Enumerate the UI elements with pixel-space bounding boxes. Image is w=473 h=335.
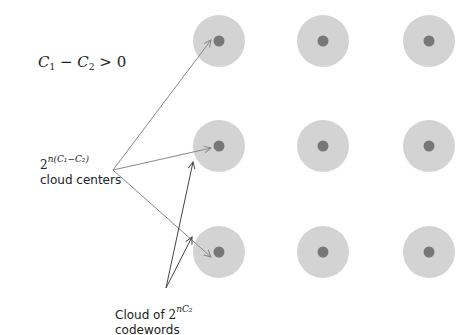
cloud-center: [424, 36, 435, 47]
codewords-text: codewords: [115, 323, 192, 335]
cloud: [193, 120, 245, 172]
cloud: [403, 15, 455, 67]
centers-exponent: n(C₁−C₂): [48, 154, 89, 164]
cloud-center: [318, 36, 329, 47]
cloud: [403, 226, 455, 278]
cloud: [297, 120, 349, 172]
cloud-grid: [193, 15, 455, 278]
codeword-arrow: [166, 162, 193, 288]
centers-base: 2: [40, 158, 48, 172]
codewords-exponent: nC₂: [176, 304, 192, 314]
codewords-prefix: Cloud of: [115, 308, 168, 322]
rate-condition: C1 − C2 > 0: [38, 53, 126, 72]
codewords-label: Cloud of 2nC₂ codewords: [115, 302, 192, 335]
cloud-center: [214, 141, 225, 152]
codewords-base: 2: [168, 308, 176, 322]
cloud-center: [214, 247, 225, 258]
minus-sign: −: [55, 53, 77, 71]
cloud-center: [214, 36, 225, 47]
relation: > 0: [95, 53, 127, 71]
c2-symbol: C: [77, 53, 88, 71]
cloud: [193, 226, 245, 278]
cloud-center: [318, 247, 329, 258]
cloud-center: [318, 141, 329, 152]
codeword-arrow: [166, 237, 192, 288]
center-arrow: [113, 170, 211, 257]
cloud: [193, 15, 245, 67]
c1-symbol: C: [38, 53, 49, 71]
centers-text: cloud centers: [40, 173, 121, 188]
cloud: [297, 226, 349, 278]
cloud: [297, 15, 349, 67]
cloud-centers-label: 2n(C₁−C₂) cloud centers: [40, 152, 121, 188]
cloud-center: [424, 247, 435, 258]
cloud: [403, 120, 455, 172]
cloud-center: [424, 141, 435, 152]
